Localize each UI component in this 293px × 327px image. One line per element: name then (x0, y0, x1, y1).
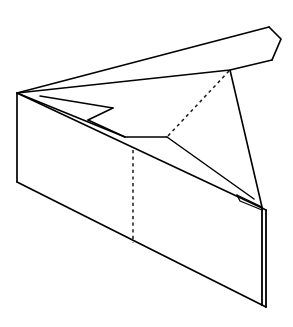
hidden-fold-diagonal-line (167, 71, 229, 137)
front-panel-fill (17, 93, 262, 305)
line-drawing-canvas: Wedge-shaped open carton line drawing Bl… (0, 0, 293, 327)
face-fill-group (17, 27, 281, 307)
line-drawing-figure: Wedge-shaped open carton line drawing Bl… (0, 0, 293, 327)
